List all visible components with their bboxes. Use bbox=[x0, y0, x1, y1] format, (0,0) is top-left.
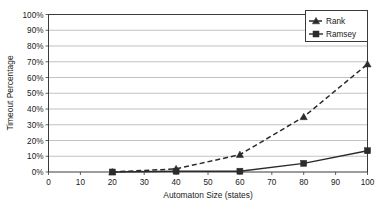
x-axis-title: Automaton Size (states) bbox=[163, 190, 253, 200]
y-tick-label-80%: 80% bbox=[27, 42, 43, 51]
data-point-marker-ramsey-40 bbox=[173, 168, 179, 174]
y-tick-label-10%: 10% bbox=[27, 152, 43, 161]
y-tick-label-20%: 20% bbox=[27, 137, 43, 146]
y-tick-label-40%: 40% bbox=[27, 105, 43, 114]
y-axis-title: Timeout Percentage bbox=[5, 55, 15, 130]
x-tick-label-80: 80 bbox=[299, 178, 309, 187]
x-tick-label-70: 70 bbox=[267, 178, 277, 187]
data-point-marker-ramsey-60 bbox=[237, 168, 243, 174]
x-tick-label-40: 40 bbox=[172, 178, 182, 187]
square-marker bbox=[313, 31, 319, 37]
x-tick-label-0: 0 bbox=[46, 178, 51, 187]
data-point-marker-ramsey-80 bbox=[301, 160, 307, 166]
chart-container: 0%10%20%30%40%50%60%70%80%90%100% 010203… bbox=[0, 0, 384, 209]
y-tick-label-90%: 90% bbox=[27, 26, 43, 35]
x-tick-label-20: 20 bbox=[108, 178, 118, 187]
legend-label-ramsey: Ramsey bbox=[326, 30, 357, 39]
data-point-marker-ramsey-20 bbox=[109, 169, 115, 175]
timeout-percentage-line-chart: 0%10%20%30%40%50%60%70%80%90%100% 010203… bbox=[0, 0, 384, 209]
x-tick-label-50: 50 bbox=[203, 178, 213, 187]
y-tick-label-0%: 0% bbox=[32, 168, 44, 177]
data-point-marker-ramsey-100 bbox=[365, 148, 371, 154]
x-tick-label-30: 30 bbox=[140, 178, 150, 187]
x-tick-label-10: 10 bbox=[76, 178, 86, 187]
x-tick-label-60: 60 bbox=[235, 178, 245, 187]
y-tick-label-70%: 70% bbox=[27, 58, 43, 67]
y-tick-label-60%: 60% bbox=[27, 74, 43, 83]
chart-legend: RankRamsey bbox=[306, 11, 368, 42]
x-tick-label-90: 90 bbox=[331, 178, 341, 187]
y-tick-label-100%: 100% bbox=[23, 11, 44, 20]
x-tick-label-100: 100 bbox=[361, 178, 375, 187]
y-tick-label-30%: 30% bbox=[27, 121, 43, 130]
y-tick-label-50%: 50% bbox=[27, 89, 43, 98]
legend-label-rank: Rank bbox=[326, 17, 346, 26]
